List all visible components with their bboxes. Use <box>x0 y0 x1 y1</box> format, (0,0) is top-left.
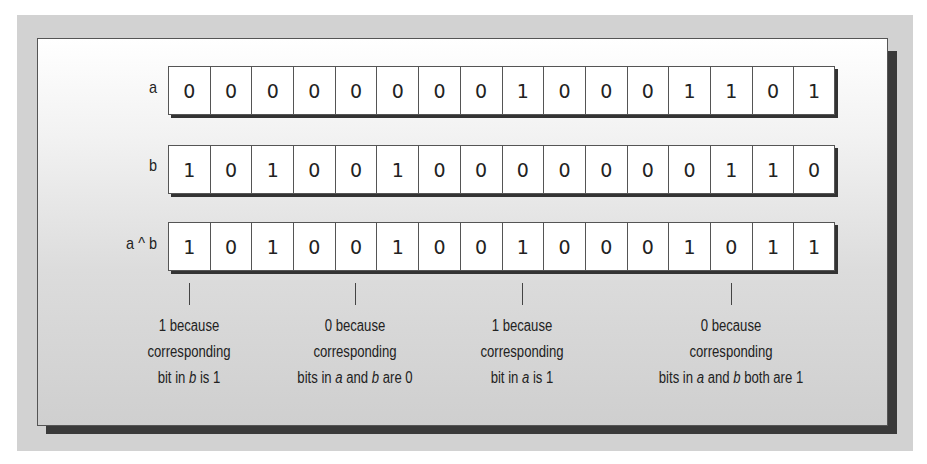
bit-cell: 1 <box>710 66 752 115</box>
bit-cell: 0 <box>585 145 627 194</box>
annotation-line: corresponding <box>637 339 826 365</box>
annotation-line: bits in a and b both are 1 <box>637 365 826 391</box>
annotation-tick <box>731 283 732 305</box>
annotation-line: corresponding <box>277 339 433 365</box>
annotation-line: 0 because <box>637 313 826 339</box>
bit-cell: 1 <box>251 222 293 271</box>
bit-cell: 0 <box>627 222 669 271</box>
row-label-a: a <box>89 78 157 98</box>
annotation-bit-0: 1 because corresponding bit in b is 1 <box>140 313 238 391</box>
bit-cell: 1 <box>502 66 544 115</box>
annotation-line: 1 because <box>473 313 571 339</box>
bit-cell: 0 <box>251 66 293 115</box>
row-label-a-xor-b: a ^ b <box>89 234 157 254</box>
bit-cell: 0 <box>502 145 544 194</box>
annotation-bit-4: 0 because corresponding bits in a and b … <box>277 313 433 391</box>
annotation-line: corresponding <box>140 339 238 365</box>
row-label-b: b <box>89 156 157 176</box>
bit-cell: 0 <box>210 145 252 194</box>
bit-cell: 0 <box>627 66 669 115</box>
bit-cell: 0 <box>585 222 627 271</box>
bit-cell: 0 <box>210 222 252 271</box>
bit-cell: 0 <box>293 222 335 271</box>
bit-cell: 1 <box>710 145 752 194</box>
annotation-line: 0 because <box>277 313 433 339</box>
bit-cell: 0 <box>168 66 210 115</box>
bit-cell: 1 <box>251 145 293 194</box>
annotation-line: bits in a and b are 0 <box>277 365 433 391</box>
bit-cell: 1 <box>376 145 418 194</box>
annotation-line: corresponding <box>473 339 571 365</box>
bit-cell: 0 <box>460 222 502 271</box>
bit-cell: 0 <box>293 145 335 194</box>
bit-cell: 1 <box>793 222 835 271</box>
annotation-line: 1 because <box>140 313 238 339</box>
bit-cell: 1 <box>502 222 544 271</box>
annotation-bit-8: 1 because corresponding bit in a is 1 <box>473 313 571 391</box>
bit-cell: 0 <box>543 66 585 115</box>
bit-cells: 1 0 1 0 0 1 0 0 0 0 0 0 0 1 1 0 <box>168 145 835 194</box>
bit-cell: 0 <box>543 222 585 271</box>
bit-cell: 0 <box>710 222 752 271</box>
bit-cell: 0 <box>793 145 835 194</box>
annotation-line: bit in a is 1 <box>473 365 571 391</box>
bit-cell: 1 <box>793 66 835 115</box>
bit-cell: 0 <box>460 145 502 194</box>
bit-cell: 0 <box>585 66 627 115</box>
bit-cell: 0 <box>335 145 377 194</box>
bit-cell: 0 <box>335 66 377 115</box>
bit-cell: 0 <box>418 66 460 115</box>
bit-cell: 0 <box>752 66 794 115</box>
annotation-bit-13: 0 because corresponding bits in a and b … <box>637 313 826 391</box>
bit-cells: 0 0 0 0 0 0 0 0 1 0 0 0 1 1 0 1 <box>168 66 835 115</box>
annotation-tick <box>189 283 190 305</box>
bit-cell: 0 <box>335 222 377 271</box>
bit-cell: 1 <box>668 66 710 115</box>
bit-cell: 1 <box>168 222 210 271</box>
annotation-line: bit in b is 1 <box>140 365 238 391</box>
annotation-tick <box>355 283 356 305</box>
bit-cell: 1 <box>376 222 418 271</box>
annotation-tick <box>522 283 523 305</box>
bit-cell: 1 <box>752 145 794 194</box>
bit-cell: 0 <box>543 145 585 194</box>
bit-cell: 0 <box>668 145 710 194</box>
bit-cell: 1 <box>668 222 710 271</box>
bit-cell: 0 <box>460 66 502 115</box>
bit-cell: 1 <box>168 145 210 194</box>
bit-cell: 0 <box>418 145 460 194</box>
bit-cells: 1 0 1 0 0 1 0 0 1 0 0 0 1 0 1 1 <box>168 222 835 271</box>
bit-cell: 0 <box>293 66 335 115</box>
bit-cell: 0 <box>376 66 418 115</box>
bit-cell: 0 <box>627 145 669 194</box>
bit-cell: 0 <box>418 222 460 271</box>
bit-cell: 1 <box>752 222 794 271</box>
bit-cell: 0 <box>210 66 252 115</box>
